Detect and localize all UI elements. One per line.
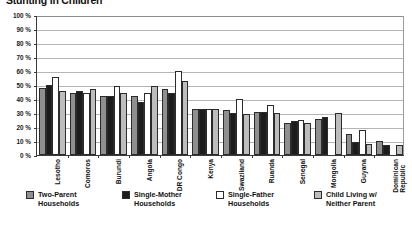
legend-swatch-icon [314, 191, 322, 199]
bar-group [68, 16, 99, 155]
x-tick-label: Burundi [115, 159, 122, 184]
plot-area [36, 16, 404, 156]
bar [291, 121, 298, 155]
y-tick-mark [34, 30, 37, 31]
x-tick-label: Lesotho [54, 159, 61, 185]
bar [254, 112, 261, 155]
y-tick-label: 70 % [16, 55, 31, 61]
y-tick-mark [34, 156, 37, 157]
y-tick-mark [34, 86, 37, 87]
bar-group [190, 16, 221, 155]
x-tick-mark [282, 155, 283, 158]
bar [366, 144, 373, 155]
y-tick-label: 40 % [16, 97, 31, 103]
bar [182, 81, 189, 155]
y-tick-mark [34, 58, 37, 59]
bar-group [129, 16, 160, 155]
bar [70, 93, 77, 155]
y-tick-mark [34, 142, 37, 143]
legend-label: Single-Mother Households [134, 190, 182, 208]
bar-group [37, 16, 68, 155]
bar [315, 119, 322, 155]
y-tick-mark [34, 72, 37, 73]
x-tick-mark [221, 155, 222, 158]
bar [383, 145, 390, 155]
y-tick-mark [34, 44, 37, 45]
x-tick-mark [190, 155, 191, 158]
x-tick-mark [344, 155, 345, 158]
x-tick-label: DominicanRepublic [393, 159, 406, 193]
bar [100, 96, 107, 155]
y-tick-label: 10 % [16, 139, 31, 145]
x-tick-label: Guyana [360, 159, 367, 183]
bar [304, 123, 311, 155]
bar [199, 109, 206, 155]
x-tick-label: Mongolia [330, 159, 337, 188]
x-tick-mark [68, 155, 69, 158]
bar-group [160, 16, 191, 155]
legend-item[interactable]: Child Living w/ Neither Parent [314, 190, 377, 208]
y-tick-label: 20 % [16, 125, 31, 131]
y-tick-label: 90 % [16, 27, 31, 33]
legend-item[interactable]: Two-Parent Households [26, 190, 79, 208]
y-axis: 100 %90 %80 %70 %60 %50 %40 %30 %20 %10 … [0, 16, 34, 156]
x-tick-mark [252, 155, 253, 158]
bar [83, 93, 90, 155]
bar-group [313, 16, 344, 155]
bar [192, 109, 199, 155]
bar [206, 109, 213, 155]
bar-group [282, 16, 313, 155]
x-tick-mark [374, 155, 375, 158]
y-tick-mark [34, 128, 37, 129]
bar [352, 142, 359, 155]
bar [267, 105, 274, 155]
y-tick-label: 60 % [16, 69, 31, 75]
bar [46, 85, 53, 155]
bar [107, 96, 114, 155]
bar [236, 99, 243, 155]
x-tick-mark [129, 155, 130, 158]
bar-group [98, 16, 129, 155]
bar [131, 96, 138, 155]
bar [212, 109, 219, 155]
x-tick-label: Swaziland [238, 159, 245, 191]
bar-group [221, 16, 252, 155]
legend-swatch-icon [26, 191, 34, 199]
legend-swatch-icon [122, 191, 130, 199]
bar [90, 89, 97, 155]
y-tick-label: 100 % [13, 13, 31, 19]
x-tick-mark [313, 155, 314, 158]
chart-legend: Two-Parent HouseholdsSingle-Mother House… [26, 190, 412, 230]
x-tick-label: Senegal [299, 159, 306, 184]
bar [274, 113, 281, 155]
bar [359, 130, 366, 155]
bar [151, 86, 158, 155]
legend-item[interactable]: Single-Father Households [216, 190, 274, 208]
bar [39, 88, 46, 155]
legend-label: Two-Parent Households [38, 190, 79, 208]
bar [120, 93, 127, 155]
bar [260, 112, 267, 155]
bar [322, 117, 329, 155]
chart-plot-wrapper: 100 %90 %80 %70 %60 %50 %40 %30 %20 %10 … [0, 16, 412, 188]
bar [298, 120, 305, 155]
bar-group [374, 16, 405, 155]
bar [223, 110, 230, 155]
bar [138, 102, 145, 155]
x-tick-label: Ruanda [268, 159, 275, 183]
y-tick-mark [34, 114, 37, 115]
bar-group [344, 16, 375, 155]
bar [162, 89, 169, 155]
bar-group [252, 16, 283, 155]
bar [76, 91, 83, 155]
legend-item[interactable]: Single-Mother Households [122, 190, 182, 208]
x-tick-label: Kenya [207, 159, 214, 179]
chart-title: Stunting in Children [6, 0, 102, 6]
legend-swatch-icon [216, 191, 224, 199]
bars-layer [37, 16, 404, 155]
y-tick-label: 50 % [16, 83, 31, 89]
y-tick-mark [34, 16, 37, 17]
bar [230, 113, 237, 155]
y-tick-mark [34, 100, 37, 101]
bar [144, 93, 151, 155]
